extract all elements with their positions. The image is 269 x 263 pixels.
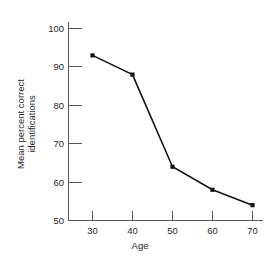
data-point-age-50 bbox=[170, 165, 174, 169]
x-tick-label-60: 60 bbox=[207, 225, 218, 236]
chart-background bbox=[0, 0, 269, 263]
data-point-age-30 bbox=[90, 53, 94, 57]
y-tick-label-50: 50 bbox=[53, 215, 64, 226]
chart-figure: 100 90 80 70 60 50 30 40 50 60 70 Age Me… bbox=[0, 0, 269, 263]
data-point-age-60 bbox=[210, 188, 214, 192]
y-tick-label-60: 60 bbox=[53, 177, 64, 188]
y-axis-title-line-1: Mean percent correct bbox=[15, 79, 26, 169]
y-tick-label-80: 80 bbox=[53, 100, 64, 111]
data-point-age-40 bbox=[130, 72, 134, 76]
x-tick-label-40: 40 bbox=[127, 225, 138, 236]
x-tick-label-70: 70 bbox=[247, 225, 258, 236]
x-axis-title: Age bbox=[132, 240, 149, 251]
y-tick-label-70: 70 bbox=[53, 138, 64, 149]
line-chart: 100 90 80 70 60 50 30 40 50 60 70 Age Me… bbox=[0, 0, 269, 263]
y-tick-label-90: 90 bbox=[53, 61, 64, 72]
x-tick-label-30: 30 bbox=[87, 225, 98, 236]
data-point-age-70 bbox=[250, 203, 254, 207]
y-tick-label-100: 100 bbox=[48, 23, 64, 34]
x-tick-label-50: 50 bbox=[167, 225, 178, 236]
y-axis-title-line-2: identifications bbox=[26, 95, 37, 153]
